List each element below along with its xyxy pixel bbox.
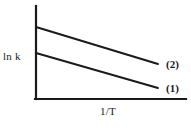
plot-canvas: [0, 0, 191, 128]
y-axis-label: ln k: [3, 50, 21, 62]
series-label-2: (2): [166, 58, 179, 70]
x-axis-label: 1/T: [100, 105, 116, 117]
series-label-1: (1): [166, 82, 179, 94]
arrhenius-plot-figure: ln k 1/T (2) (1): [0, 0, 191, 128]
